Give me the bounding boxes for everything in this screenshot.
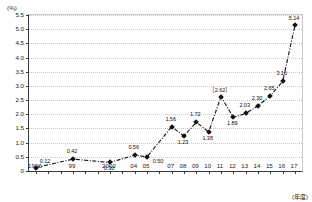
data-point-label: 1.89 xyxy=(227,120,238,126)
y-axis-tick-label: 4.0 xyxy=(0,53,24,60)
data-point-label: 2.03 xyxy=(239,102,250,108)
data-point-label: 1.23 xyxy=(178,139,189,145)
x-axis-tick-mark xyxy=(159,171,160,174)
data-point-label: 0.56 xyxy=(128,144,139,150)
y-axis-tick-label: 3.5 xyxy=(0,67,24,74)
x-axis-tick-mark xyxy=(85,171,86,174)
y-axis-tick-label: 4.5 xyxy=(0,39,24,46)
x-axis-tick-mark xyxy=(184,171,185,174)
x-axis-tick-mark xyxy=(283,171,284,174)
data-point-label: 3.16 xyxy=(276,70,287,76)
chart-container: (％) (年度) 00.51.01.52.02.53.03.54.04.55.0… xyxy=(0,0,312,202)
y-axis-tick-mark xyxy=(26,171,29,172)
y-axis-tick-label: 2.5 xyxy=(0,96,24,103)
x-axis-title: (年度) xyxy=(292,192,308,201)
x-axis-tick-mark xyxy=(147,171,148,174)
y-axis-tick-label: 1.5 xyxy=(0,124,24,131)
data-point-label: 1.56 xyxy=(165,116,176,122)
x-axis-tick-mark xyxy=(209,171,210,174)
data-point-label: 0.30 xyxy=(104,165,115,171)
data-point-label: 0.50 xyxy=(153,158,164,164)
x-axis-tick-mark xyxy=(73,171,74,174)
data-point-label: 0.42 xyxy=(67,148,78,154)
y-axis-tick-label: 5.5 xyxy=(0,11,24,18)
x-axis-tick-mark xyxy=(295,171,296,174)
y-axis-tick-label: 5.0 xyxy=(0,25,24,32)
y-axis-tick-label: 0 xyxy=(0,167,24,174)
x-axis-tick-mark xyxy=(172,171,173,174)
x-axis-tick-mark xyxy=(233,171,234,174)
y-axis-tick-label: 1.0 xyxy=(0,138,24,145)
x-axis-tick-mark xyxy=(61,171,62,174)
x-axis-tick-mark xyxy=(258,171,259,174)
data-point-label: 1.38 xyxy=(202,135,213,141)
data-point-label: 1.72 xyxy=(190,111,201,117)
y-axis-tick-label: 0.5 xyxy=(0,152,24,159)
x-axis-tick-mark xyxy=(196,171,197,174)
x-axis-tick-mark xyxy=(122,171,123,174)
x-axis-tick-label: 99 xyxy=(59,162,85,169)
x-axis-tick-mark xyxy=(270,171,271,174)
x-axis-tick-mark xyxy=(48,171,49,174)
y-axis-tick-label: 3.0 xyxy=(0,81,24,88)
data-point-label: 2.65 xyxy=(264,85,275,91)
x-axis-tick-mark xyxy=(36,171,37,174)
data-point-label: 2.30 xyxy=(252,95,263,101)
x-axis-tick-label: 17 xyxy=(281,162,307,169)
data-point-label: 5.14 xyxy=(289,15,300,21)
data-point-label: ［2.62］ xyxy=(209,86,231,94)
x-axis-tick-mark xyxy=(246,171,247,174)
y-axis-tick-label: 2.0 xyxy=(0,110,24,117)
data-point-label: 0.12 xyxy=(40,158,51,164)
x-axis-tick-mark xyxy=(135,171,136,174)
x-axis-tick-mark xyxy=(221,171,222,174)
x-axis-tick-mark xyxy=(98,171,99,174)
